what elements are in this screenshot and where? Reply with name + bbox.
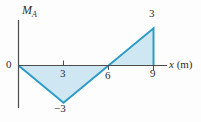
x-tick-label-6: 6 xyxy=(105,70,111,81)
moment-diagram-figure: MA 0 3 6 9 3 −3 x (m) xyxy=(0,0,201,122)
x-tick-label-9: 9 xyxy=(150,68,156,79)
x-axis-label: x (m) xyxy=(169,59,193,70)
y-axis-label-main: M xyxy=(22,3,32,17)
origin-label: 0 xyxy=(6,59,12,70)
y-axis-label-sub: A xyxy=(32,10,37,19)
x-tick-label-3: 3 xyxy=(60,68,66,79)
y-axis-label: MA xyxy=(22,4,37,19)
peak-value-label: 3 xyxy=(149,8,155,19)
x-axis-label-var: x xyxy=(169,58,174,70)
valley-value-label: −3 xyxy=(54,103,66,114)
x-axis-label-unit: (m) xyxy=(177,58,193,70)
